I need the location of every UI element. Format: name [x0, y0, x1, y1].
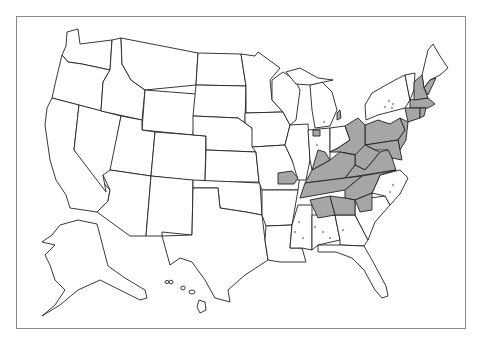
state-colorado	[151, 132, 206, 182]
state-iowa	[245, 112, 290, 147]
state-wyoming	[142, 90, 196, 135]
state-indiana-spot	[313, 130, 320, 136]
state-north-dakota	[196, 53, 246, 86]
state-kansas	[205, 150, 259, 182]
us-map	[0, 0, 477, 341]
state-florida	[318, 245, 388, 298]
state-rhode-island	[420, 108, 426, 118]
state-maine	[422, 44, 448, 88]
state-new-york	[365, 75, 410, 120]
state-new-mexico	[146, 176, 193, 236]
state-hawaii	[165, 280, 206, 313]
state-arkansas	[262, 190, 298, 226]
state-michigan-spot	[337, 110, 341, 120]
state-connecticut	[405, 108, 420, 122]
